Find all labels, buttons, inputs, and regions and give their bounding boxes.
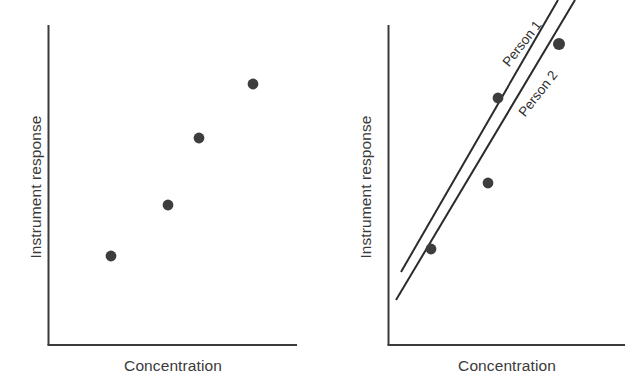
plot-area-left [0, 0, 317, 390]
y-axis-label-right: Instrument response [357, 87, 375, 287]
data-point-marker [483, 178, 494, 189]
data-point-marker [194, 133, 205, 144]
data-point-marker [553, 38, 565, 50]
chart-panel-left: Instrument response Concentration [0, 0, 317, 390]
data-point-marker [106, 251, 117, 262]
fit-line-person-1 [401, 0, 558, 272]
figure-canvas: Instrument response Concentration Person… [0, 0, 634, 390]
data-point-marker [493, 93, 504, 104]
data-point-marker [248, 79, 259, 90]
fit-line-person-2 [396, 0, 575, 300]
x-axis-label-right: Concentration [387, 357, 627, 375]
data-point-marker [163, 200, 174, 211]
chart-panel-right: Person 1 Person 2 Instrument response Co… [317, 0, 634, 390]
y-axis-label-left: Instrument response [27, 87, 45, 287]
x-axis-label-left: Concentration [48, 357, 298, 375]
data-point-marker [426, 244, 437, 255]
